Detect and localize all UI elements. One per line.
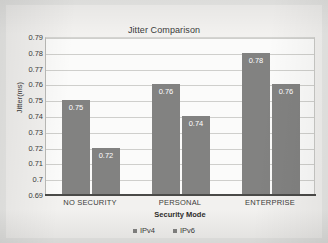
chart-legend: IPv4IPv6 xyxy=(6,226,322,235)
legend-item-ipv6[interactable]: IPv6 xyxy=(173,226,195,235)
y-axis-tick-label: 0.75 xyxy=(9,96,43,105)
bar-ipv6-no-security: 0.72 xyxy=(92,148,120,195)
bar-value-label: 0.74 xyxy=(182,119,210,128)
y-axis-tick-label: 0.73 xyxy=(9,127,43,136)
y-axis-ticks: 0.790.780.770.760.750.740.730.720.710.70… xyxy=(6,37,43,195)
plot-area: 0.750.720.760.740.780.76 xyxy=(45,37,315,195)
y-axis-tick-label: 0.7 xyxy=(9,175,43,184)
bar-value-label: 0.72 xyxy=(92,151,120,160)
bar-value-label: 0.75 xyxy=(62,103,90,112)
bar-value-label: 0.76 xyxy=(272,87,300,96)
y-axis-tick-label: 0.76 xyxy=(9,80,43,89)
legend-swatch-icon xyxy=(133,229,137,233)
chart-title: Jitter Comparison xyxy=(6,25,322,35)
x-axis-tick-label: PERSONAL xyxy=(135,198,225,207)
bar-value-label: 0.78 xyxy=(242,56,270,65)
bar-ipv6-personal: 0.74 xyxy=(182,116,210,195)
y-axis-tick-label: 0.79 xyxy=(9,33,43,42)
x-axis-label: Security Mode xyxy=(45,210,315,219)
chart-figure: Jitter Comparison Jitter(ms) 0.790.780.7… xyxy=(0,0,328,243)
legend-swatch-icon xyxy=(173,229,177,233)
bar-ipv4-enterprise: 0.78 xyxy=(242,53,270,195)
legend-label: IPv4 xyxy=(140,226,155,235)
y-axis-tick-label: 0.74 xyxy=(9,112,43,121)
x-axis-tick-label: ENTERPRISE xyxy=(225,198,315,207)
y-axis-tick-label: 0.72 xyxy=(9,143,43,152)
y-axis-tick-label: 0.77 xyxy=(9,64,43,73)
bar-ipv4-personal: 0.76 xyxy=(152,84,180,195)
x-axis-line xyxy=(45,194,316,196)
x-axis-ticks: NO SECURITYPERSONALENTERPRISE xyxy=(45,198,315,210)
legend-item-ipv4[interactable]: IPv4 xyxy=(133,226,155,235)
y-axis-tick-label: 0.69 xyxy=(9,191,43,200)
bar-ipv4-no-security: 0.75 xyxy=(62,100,90,195)
bars-layer: 0.750.720.760.740.780.76 xyxy=(46,38,314,195)
x-axis-tick-label: NO SECURITY xyxy=(45,198,135,207)
chart-canvas: Jitter Comparison Jitter(ms) 0.790.780.7… xyxy=(6,5,322,238)
y-axis-tick-label: 0.71 xyxy=(9,159,43,168)
y-axis-tick-label: 0.78 xyxy=(9,48,43,57)
bar-value-label: 0.76 xyxy=(152,87,180,96)
bar-ipv6-enterprise: 0.76 xyxy=(272,84,300,195)
legend-label: IPv6 xyxy=(180,226,195,235)
